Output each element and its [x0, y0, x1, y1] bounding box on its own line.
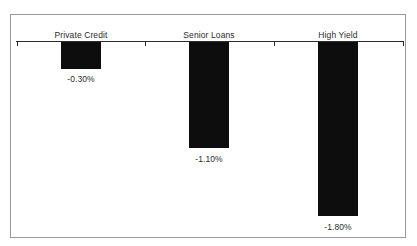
category-label-private-credit: Private Credit: [55, 30, 108, 40]
category-label-high-yield: High Yield: [318, 30, 357, 40]
axis-tick-1: [145, 41, 146, 46]
bar-senior-loans[interactable]: [189, 42, 229, 148]
chart-screenshot: Private Credit -0.30% Senior Loans -1.10…: [0, 0, 417, 246]
cropped-title-remnant: [0, 0, 417, 6]
axis-tick-2: [274, 41, 275, 46]
bar-private-credit[interactable]: [61, 42, 101, 69]
category-label-senior-loans: Senior Loans: [183, 30, 234, 40]
axis-tick-0: [17, 41, 18, 46]
value-label-high-yield: -1.80%: [324, 222, 352, 232]
chart-frame: Private Credit -0.30% Senior Loans -1.10…: [10, 14, 406, 238]
bar-high-yield[interactable]: [318, 42, 358, 216]
plot-area: Private Credit -0.30% Senior Loans -1.10…: [11, 15, 405, 237]
axis-tick-3: [403, 41, 404, 46]
value-label-private-credit: -0.30%: [67, 74, 95, 84]
value-label-senior-loans: -1.10%: [195, 154, 223, 164]
